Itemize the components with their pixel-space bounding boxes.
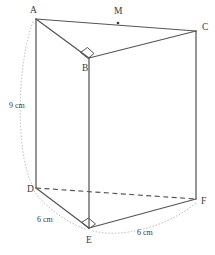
visible-edges bbox=[36, 19, 196, 228]
point-labels: M bbox=[114, 6, 123, 16]
dimension-label-base-ef: 6 cm bbox=[137, 228, 154, 237]
right-angle-marks bbox=[81, 48, 96, 229]
edge-bc bbox=[89, 31, 196, 58]
vertex-label-d: D bbox=[27, 184, 34, 194]
hidden-edges bbox=[36, 188, 196, 199]
edge-df-hidden bbox=[36, 188, 196, 199]
prism-diagram-canvas: A B C D E F M 9 cm 6 cm 6 cm bbox=[0, 0, 215, 255]
vertex-label-e: E bbox=[86, 235, 92, 245]
point-label-m: M bbox=[114, 6, 123, 16]
dimension-label-base-de: 6 cm bbox=[37, 215, 54, 224]
edge-ef bbox=[89, 199, 196, 228]
vertex-label-c: C bbox=[202, 22, 208, 32]
point-marker-m bbox=[117, 22, 120, 25]
vertex-label-a: A bbox=[30, 5, 37, 15]
vertex-label-f: F bbox=[201, 196, 206, 206]
dimension-label-height: 9 cm bbox=[9, 101, 26, 110]
geometry-figure: A B C D E F M 9 cm 6 cm 6 cm bbox=[0, 0, 215, 255]
edge-ac bbox=[36, 19, 196, 31]
vertex-labels: A B C D E F bbox=[27, 5, 208, 245]
edge-point-markers bbox=[117, 22, 120, 25]
vertex-label-b: B bbox=[82, 63, 88, 73]
